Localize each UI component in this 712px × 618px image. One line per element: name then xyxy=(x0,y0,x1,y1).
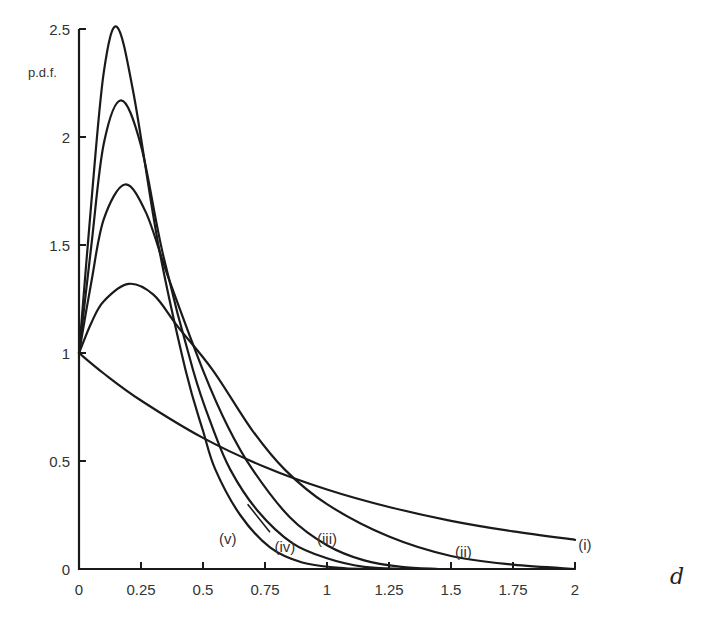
y-tick-label: 0 xyxy=(62,561,70,578)
curve-i xyxy=(79,353,575,540)
curve-iv xyxy=(79,100,401,569)
x-tick-label: 1.5 xyxy=(441,581,462,598)
curve-label-iv: (iv) xyxy=(274,538,295,555)
y-tick-label: 0.5 xyxy=(49,453,70,470)
x-tick-label: 0.75 xyxy=(250,581,279,598)
y-tick-label: 1 xyxy=(62,345,70,362)
curves xyxy=(79,26,575,569)
y-tick-label: 2.5 xyxy=(49,21,70,38)
pdf-chart: 00.250.50.7511.251.51.752 00.511.522.5 (… xyxy=(0,0,712,618)
x-tick-label: 0.25 xyxy=(126,581,155,598)
x-tick-label: 2 xyxy=(571,581,579,598)
x-axis-label: d xyxy=(670,564,684,589)
curve-label-i: (i) xyxy=(578,536,591,553)
x-tick-label: 1.25 xyxy=(374,581,403,598)
curve-label-v: (v) xyxy=(219,530,237,547)
x-tick-label: 1.75 xyxy=(498,581,527,598)
curve-ii xyxy=(79,284,575,569)
x-tick-label: 1 xyxy=(323,581,331,598)
y-tick-label: 1.5 xyxy=(49,237,70,254)
curve-label-iii: (iii) xyxy=(317,530,337,547)
axis-lines xyxy=(79,29,575,569)
y-axis-label: p.d.f. xyxy=(28,65,57,80)
x-tick-label: 0 xyxy=(75,581,83,598)
y-tick-label: 2 xyxy=(62,129,70,146)
curve-labels: (i)(ii)(iii)(iv)(v) xyxy=(219,504,592,560)
y-axis-ticks: 00.511.522.5 xyxy=(49,21,86,578)
axes xyxy=(79,29,575,569)
curve-label-ii: (ii) xyxy=(455,543,472,560)
x-tick-label: 0.5 xyxy=(193,581,214,598)
